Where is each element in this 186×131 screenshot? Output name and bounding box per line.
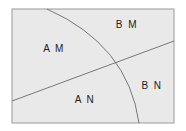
diagram-frame (12, 9, 174, 123)
region-label-am: A M (43, 43, 65, 54)
region-label-bn: B N (141, 80, 162, 91)
region-label-an: A N (75, 94, 96, 105)
region-label-bm: B M (116, 19, 138, 30)
region-diagram: A M B M A N B N (0, 0, 186, 131)
